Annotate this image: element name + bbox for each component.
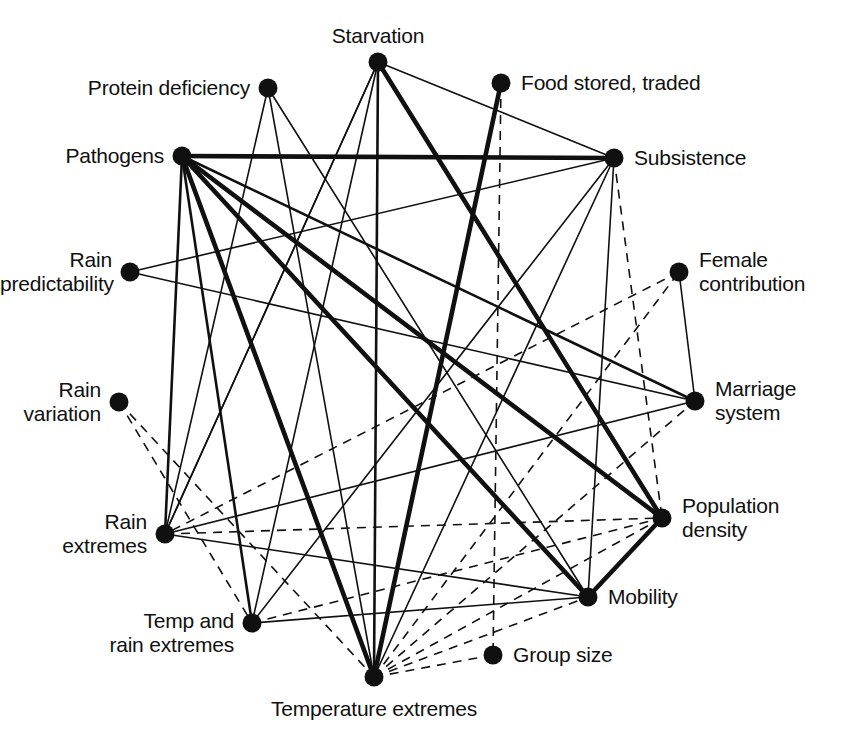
node-temperature_extr[interactable]: [365, 668, 384, 687]
node-pathogens[interactable]: [173, 147, 192, 166]
edge-rain_extremes-to-mobility: [165, 534, 588, 597]
node-label-pop_density: Population density: [682, 494, 843, 543]
node-label-rain_extremes: Rain extremes: [0, 510, 147, 559]
node-subsistence[interactable]: [605, 149, 624, 168]
node-label-group_size: Group size: [513, 643, 843, 667]
node-protein[interactable]: [259, 79, 278, 98]
node-group_size[interactable]: [484, 646, 503, 665]
node-label-mobility: Mobility: [608, 585, 843, 609]
edge-female_contrib-to-rain_extremes: [165, 272, 679, 534]
node-marriage[interactable]: [686, 392, 705, 411]
node-food_stored[interactable]: [492, 74, 511, 93]
node-pop_density[interactable]: [653, 509, 672, 528]
node-label-food_stored: Food stored, traded: [521, 71, 843, 95]
node-label-rain_pred: Rain predictability: [0, 248, 112, 297]
node-starvation[interactable]: [369, 53, 388, 72]
node-rain_pred[interactable]: [121, 263, 140, 282]
node-rain_extremes[interactable]: [156, 525, 175, 544]
edge-pathogens-to-subsistence: [182, 156, 614, 158]
node-label-temperature_extr: Temperature extremes: [194, 697, 554, 721]
node-label-temp_rain_extr: Temp and rain extremes: [0, 609, 234, 658]
edge-pathogens-to-mobility: [182, 156, 588, 597]
edge-female_contrib-to-marriage: [679, 272, 695, 401]
node-label-female_contrib: Female contribution: [699, 248, 843, 297]
edge-starvation-to-temp_rain_extr: [252, 62, 378, 623]
node-label-rain_var: Rain variation: [0, 378, 101, 427]
edge-temperature_extr-to-group_size: [374, 655, 493, 677]
node-female_contrib[interactable]: [670, 263, 689, 282]
node-label-pathogens: Pathogens: [0, 144, 164, 168]
node-temp_rain_extr[interactable]: [243, 614, 262, 633]
node-mobility[interactable]: [579, 588, 598, 607]
node-label-marriage: Marriage system: [715, 377, 843, 426]
edge-pathogens-to-temp_rain_extr: [182, 156, 252, 623]
edge-pathogens-to-rain_extremes: [165, 156, 182, 534]
edge-rain_extremes-to-starvation: [165, 62, 378, 534]
node-label-starvation: Starvation: [198, 24, 558, 48]
node-rain_var[interactable]: [110, 393, 129, 412]
diagram-canvas: StarvationProtein deficiencyFood stored,…: [0, 0, 843, 736]
node-label-subsistence: Subsistence: [634, 146, 843, 170]
node-label-protein: Protein deficiency: [0, 76, 250, 100]
edge-protein-to-temperature_extr: [268, 88, 374, 677]
